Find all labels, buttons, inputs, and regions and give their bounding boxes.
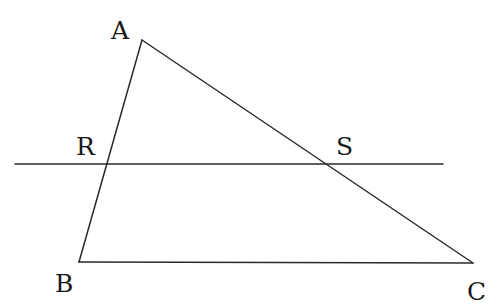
vertex-label-b: B xyxy=(55,269,73,298)
vertex-label-a: A xyxy=(110,16,130,45)
point-label-r: R xyxy=(76,132,96,161)
triangle-diagram: A B C R S xyxy=(0,0,500,305)
side-bc xyxy=(79,262,473,263)
side-ac xyxy=(142,40,473,263)
point-label-s: S xyxy=(336,132,353,161)
diagram-svg: A B C R S xyxy=(0,0,500,305)
vertex-label-c: C xyxy=(467,277,486,305)
